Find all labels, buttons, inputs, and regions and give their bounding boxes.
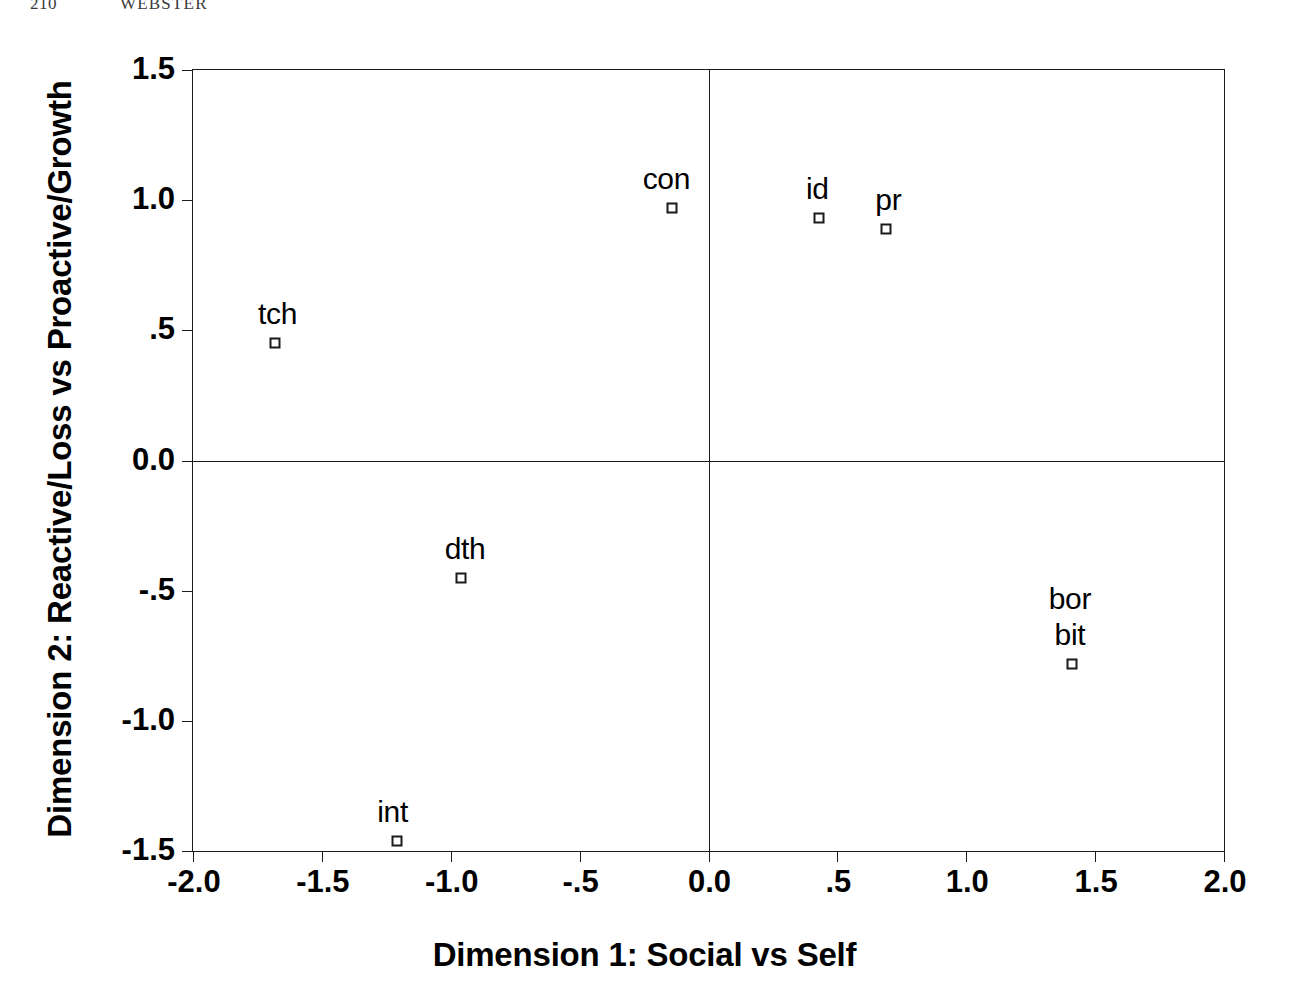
page-number: 210	[30, 0, 57, 14]
data-point-marker[interactable]	[270, 338, 281, 349]
data-point-label: tch	[258, 297, 297, 331]
data-point-label: bit	[1055, 618, 1086, 652]
y-axis-title: Dimension 2: Reactive/Loss vs Proactive/…	[41, 44, 79, 874]
y-axis-tick: -.5	[182, 591, 193, 592]
x-axis-tick: -.5	[580, 851, 581, 862]
x-axis-tick: .5	[837, 851, 838, 862]
x-axis-tick-label: 2.0	[1203, 864, 1246, 900]
y-axis-tick-label: 1.0	[132, 181, 175, 217]
y-axis-tick-label: -1.5	[122, 832, 175, 868]
data-point-label: con	[643, 162, 690, 196]
y-axis-tick: 1.0	[182, 200, 193, 201]
plot-area: 1.51.0.50.0-.5-1.0-1.5-2.0-1.5-1.0-.50.0…	[192, 69, 1225, 852]
data-point-label: pr	[875, 183, 901, 217]
x-axis-tick: 1.5	[1095, 851, 1096, 862]
horizontal-zero-axis-line	[193, 461, 1224, 462]
data-point-marker[interactable]	[456, 572, 467, 583]
x-axis-tick-label: -.5	[563, 864, 599, 900]
x-axis-tick-label: -1.5	[296, 864, 349, 900]
y-axis-tick: 1.5	[182, 70, 193, 71]
y-axis-tick-label: -.5	[139, 572, 175, 608]
x-axis-tick: -1.5	[322, 851, 323, 862]
data-point-marker[interactable]	[391, 835, 402, 846]
x-axis-tick: 0.0	[709, 851, 710, 862]
x-axis-tick-label: .5	[825, 864, 851, 900]
x-axis-tick-label: -2.0	[167, 864, 220, 900]
x-axis-tick-label: -1.0	[425, 864, 478, 900]
data-point-marker[interactable]	[1066, 658, 1077, 669]
x-axis-tick: 1.0	[966, 851, 967, 862]
y-axis-tick: -1.0	[182, 721, 193, 722]
data-point-marker[interactable]	[667, 202, 678, 213]
data-point-label: int	[377, 795, 408, 829]
y-axis-tick: 0.0	[182, 461, 193, 462]
running-head: 210 WEBSTER	[0, 0, 1289, 16]
y-axis-tick: .5	[182, 330, 193, 331]
x-axis-title: Dimension 1: Social vs Self	[0, 936, 1289, 974]
scatter-plot-figure: 210 WEBSTER Dimension 2: Reactive/Loss v…	[0, 0, 1289, 1004]
y-axis-tick: -1.5	[182, 851, 193, 852]
x-axis-tick-label: 0.0	[688, 864, 731, 900]
y-axis-tick-label: .5	[149, 311, 175, 347]
x-axis-tick: 2.0	[1224, 851, 1225, 862]
data-point-label: id	[806, 172, 829, 206]
data-point-label: dth	[445, 532, 486, 566]
y-axis-tick-label: -1.0	[122, 702, 175, 738]
y-axis-tick-label: 1.5	[132, 51, 175, 87]
y-axis-tick-label: 0.0	[132, 442, 175, 478]
data-point-label: bor	[1049, 582, 1091, 616]
x-axis-tick-label: 1.5	[1075, 864, 1118, 900]
x-axis-tick-label: 1.0	[946, 864, 989, 900]
data-point-marker[interactable]	[881, 223, 892, 234]
x-axis-tick: -1.0	[451, 851, 452, 862]
x-axis-tick: -2.0	[193, 851, 194, 862]
running-head-title: WEBSTER	[120, 0, 208, 14]
data-point-marker[interactable]	[814, 213, 825, 224]
